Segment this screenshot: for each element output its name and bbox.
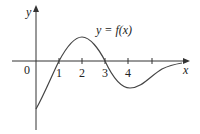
x-tick-label-4: 4	[125, 67, 131, 79]
x-tick-label-2: 2	[79, 67, 85, 79]
graph-canvas	[0, 0, 200, 134]
x-tick-label-3: 3	[102, 67, 108, 79]
origin-label: 0	[24, 64, 30, 76]
y-axis-arrow-icon	[33, 5, 39, 12]
x-tick-label-1: 1	[56, 67, 62, 79]
function-annotation: y = f(x)	[96, 24, 132, 36]
y-axis-label: y	[26, 6, 31, 18]
x-axis-label: x	[183, 64, 188, 76]
